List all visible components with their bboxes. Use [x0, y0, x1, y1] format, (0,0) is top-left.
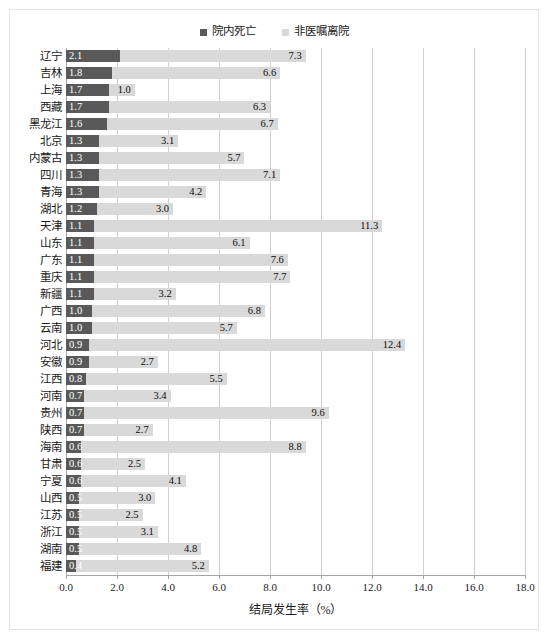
bar-value-label-in-hospital-death: 2.1: [69, 49, 82, 62]
x-axis-title: 结局发生率（%）: [66, 600, 525, 618]
bar-value-label-in-hospital-death: 1.1: [69, 219, 82, 232]
bar-row: 1.66.7: [66, 116, 525, 134]
bar-segment-discharge-against-advice[interactable]: [79, 543, 201, 555]
gridline: [525, 48, 526, 575]
bar-segment-discharge-against-advice[interactable]: [94, 271, 290, 283]
bar-value-label-discharge-against-advice: 5.7: [227, 151, 240, 164]
bar-value-label-in-hospital-death: 0.6: [69, 474, 82, 487]
category-label-10: 天津: [0, 219, 62, 233]
bar-row: 0.53.0: [66, 490, 525, 508]
bar-segment-discharge-against-advice[interactable]: [99, 169, 280, 181]
bar-value-label-discharge-against-advice: 2.5: [125, 508, 138, 521]
bar-segment-discharge-against-advice[interactable]: [86, 373, 226, 385]
bar-value-label-in-hospital-death: 0.5: [69, 525, 82, 538]
bar-value-label-discharge-against-advice: 6.8: [248, 304, 261, 317]
bar-value-label-discharge-against-advice: 3.0: [138, 491, 151, 504]
bar-segment-discharge-against-advice[interactable]: [112, 67, 280, 79]
category-axis-labels: 辽宁吉林上海西藏黑龙江北京内蒙古四川青海湖北天津山东广东重庆新疆广西云南河北安徽…: [0, 48, 62, 575]
x-tick-label: 10.0: [311, 580, 330, 594]
bar-segment-discharge-against-advice[interactable]: [94, 220, 382, 232]
bar-value-label-discharge-against-advice: 6.7: [261, 117, 274, 130]
bar-value-label-discharge-against-advice: 6.3: [253, 100, 266, 113]
chart-legend: 院内死亡非医嘱离院: [0, 23, 548, 41]
bar-value-label-discharge-against-advice: 11.3: [360, 219, 378, 232]
x-tick-label: 2.0: [110, 580, 124, 594]
bar-value-label-discharge-against-advice: 7.1: [263, 168, 276, 181]
x-tick-label: 0.0: [59, 580, 73, 594]
category-label-14: 新疆: [0, 287, 62, 301]
legend-item-in_hospital_death[interactable]: 院内死亡: [200, 26, 256, 38]
bar-segment-discharge-against-advice[interactable]: [89, 339, 405, 351]
bar-row: 0.85.5: [66, 371, 525, 389]
bar-value-label-in-hospital-death: 1.1: [69, 270, 82, 283]
bar-value-label-in-hospital-death: 0.6: [69, 440, 82, 453]
x-tick-label: 12.0: [362, 580, 381, 594]
bar-value-label-discharge-against-advice: 3.1: [161, 134, 174, 147]
bar-value-label-in-hospital-death: 1.8: [69, 66, 82, 79]
bar-value-label-discharge-against-advice: 12.4: [383, 338, 401, 351]
bar-row: 1.06.8: [66, 303, 525, 321]
bar-row: 1.71.0: [66, 82, 525, 100]
legend-item-label: 非医嘱离院: [294, 26, 349, 38]
bar-row: 0.72.7: [66, 422, 525, 440]
bar-row: 1.86.6: [66, 65, 525, 83]
bar-segment-discharge-against-advice[interactable]: [92, 322, 237, 334]
category-label-2: 上海: [0, 83, 62, 97]
bar-row: 2.17.3: [66, 48, 525, 66]
bar-value-label-in-hospital-death: 0.9: [69, 338, 82, 351]
bar-value-label-discharge-against-advice: 4.8: [184, 542, 197, 555]
plot-area: 2.17.31.86.61.71.01.76.31.66.71.33.11.35…: [66, 48, 525, 575]
bar-segment-discharge-against-advice[interactable]: [94, 254, 288, 266]
category-label-20: 河南: [0, 389, 62, 403]
bar-value-label-in-hospital-death: 0.9: [69, 355, 82, 368]
category-label-0: 辽宁: [0, 49, 62, 63]
bar-segment-discharge-against-advice[interactable]: [94, 237, 250, 249]
category-label-6: 内蒙古: [0, 151, 62, 165]
bar-row: 1.33.1: [66, 133, 525, 151]
x-tick-label: 14.0: [413, 580, 432, 594]
x-tick-label: 8.0: [263, 580, 277, 594]
bar-value-label-in-hospital-death: 0.5: [69, 491, 82, 504]
bar-segment-discharge-against-advice[interactable]: [99, 152, 244, 164]
bar-value-label-in-hospital-death: 1.0: [69, 321, 82, 334]
bar-segment-discharge-against-advice[interactable]: [76, 560, 209, 572]
bar-row: 0.912.4: [66, 337, 525, 355]
bar-row: 1.76.3: [66, 99, 525, 117]
bar-value-label-discharge-against-advice: 4.2: [189, 185, 202, 198]
bar-value-label-discharge-against-advice: 3.2: [159, 287, 172, 300]
category-label-23: 海南: [0, 440, 62, 454]
category-label-8: 青海: [0, 185, 62, 199]
bar-segment-discharge-against-advice[interactable]: [92, 305, 265, 317]
bar-value-label-in-hospital-death: 1.1: [69, 287, 82, 300]
category-label-9: 湖北: [0, 202, 62, 216]
bar-value-label-in-hospital-death: 1.0: [69, 304, 82, 317]
bar-value-label-in-hospital-death: 1.3: [69, 134, 82, 147]
bar-value-label-discharge-against-advice: 7.6: [271, 253, 284, 266]
category-label-12: 广东: [0, 253, 62, 267]
bar-value-label-discharge-against-advice: 6.6: [263, 66, 276, 79]
category-label-29: 湖南: [0, 542, 62, 556]
category-label-22: 陕西: [0, 423, 62, 437]
bar-row: 0.79.6: [66, 405, 525, 423]
bar-segment-discharge-against-advice[interactable]: [84, 407, 329, 419]
bar-row: 1.16.1: [66, 235, 525, 253]
bar-value-label-discharge-against-advice: 7.3: [289, 49, 302, 62]
bar-row: 1.13.2: [66, 286, 525, 304]
bar-value-label-in-hospital-death: 1.7: [69, 83, 82, 96]
bar-segment-discharge-against-advice[interactable]: [81, 441, 305, 453]
legend-item-discharge_against_advice[interactable]: 非医嘱离院: [282, 26, 349, 38]
bar-row: 0.68.8: [66, 439, 525, 457]
bar-segment-discharge-against-advice[interactable]: [107, 118, 278, 130]
x-axis-tick-labels: 0.02.04.06.08.010.012.014.016.018.0: [0, 580, 548, 596]
bar-segment-discharge-against-advice[interactable]: [109, 101, 270, 113]
bar-row: 1.35.7: [66, 150, 525, 168]
bar-value-label-discharge-against-advice: 4.1: [169, 474, 182, 487]
bar-value-label-discharge-against-advice: 9.6: [312, 406, 325, 419]
legend-swatch-icon: [282, 29, 289, 36]
category-label-4: 黑龙江: [0, 117, 62, 131]
bar-value-label-in-hospital-death: 0.7: [69, 389, 82, 402]
category-label-19: 江西: [0, 372, 62, 386]
bar-row: 1.17.7: [66, 269, 525, 287]
bar-segment-discharge-against-advice[interactable]: [120, 50, 306, 62]
bar-value-label-in-hospital-death: 1.6: [69, 117, 82, 130]
